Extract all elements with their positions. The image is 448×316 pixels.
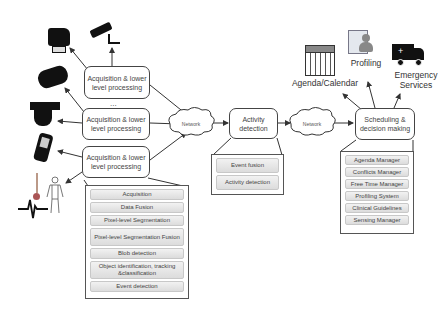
acquisition-box-2: Acquisition & lower level processing xyxy=(82,108,150,140)
activity-detection-label: Activity detection xyxy=(232,115,275,133)
acquisition-box-1: Acquisition & lower level processing xyxy=(84,66,150,99)
acquisition-box-label: Acquisition & lower level processing xyxy=(85,153,147,171)
panel-item: Sensing Manager xyxy=(345,215,409,225)
agenda-calendar-label: Agenda/Calendar xyxy=(290,78,360,88)
panel-item: Object identification, tracking &classif… xyxy=(90,261,184,279)
network-label-right: Network xyxy=(297,121,327,127)
ambulance-icon: + xyxy=(392,40,426,64)
panel-item: Free Time Manager xyxy=(345,179,409,189)
activity-detection-box: Activity detection xyxy=(229,108,278,139)
acquisition-box-label: Acquisition & lower level processing xyxy=(85,115,147,133)
panel-item: Conflicts Manager xyxy=(345,167,409,177)
panel-item: Profiling System xyxy=(345,191,409,201)
profiling-icon xyxy=(348,28,378,56)
calendar-icon xyxy=(305,45,335,77)
emergency-services-label: Emergency Services xyxy=(392,70,440,90)
ellipsis: ... xyxy=(110,99,117,108)
panel-item: Event detection xyxy=(90,281,184,292)
panel-item: Blob detection xyxy=(90,248,184,259)
scheduling-label: Scheduling & decision making xyxy=(358,115,412,133)
ptz-camera-icon xyxy=(30,102,60,128)
cctv-camera-icon xyxy=(88,20,122,46)
panel-item: Agenda Manager xyxy=(345,155,409,165)
activity-detail-panel: Event fusion Activity detection xyxy=(211,154,284,195)
panel-item: Data Fusion xyxy=(90,202,184,213)
panel-item: Activity detection xyxy=(216,175,279,190)
network-label-left: Network xyxy=(176,121,206,127)
scheduling-box: Scheduling & decision making xyxy=(355,108,415,140)
thermometer-icon xyxy=(33,173,41,201)
panel-item: Pixel-level Segmentation Fusion xyxy=(90,228,184,246)
panel-item: Event fusion xyxy=(216,158,279,173)
scheduling-detail-panel: Agenda Manager Conflicts Manager Free Ti… xyxy=(340,151,414,234)
acquisition-box-label: Acquisition & lower level processing xyxy=(87,74,147,92)
acquisition-box-3: Acquisition & lower level processing xyxy=(82,146,150,178)
panel-item: Acquisition xyxy=(90,189,184,200)
box-camera-icon xyxy=(38,68,70,90)
ecg-signal-icon xyxy=(18,198,48,220)
panel-item: Clinical Guidelines xyxy=(345,203,409,213)
profiling-label: Profiling xyxy=(346,58,386,68)
camera-dome-icon xyxy=(48,28,72,52)
acquisition-detail-panel: Acquisition Data Fusion Pixel-level Segm… xyxy=(85,185,189,299)
panel-item: Pixel-level Segmentation xyxy=(90,215,184,226)
